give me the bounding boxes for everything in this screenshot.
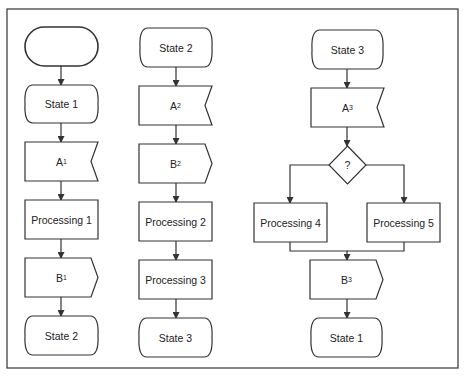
node-label-text: State 3	[159, 332, 192, 344]
node-label-state3: State 3	[312, 30, 383, 69]
node-label-text: State 1	[45, 98, 78, 110]
node-label-text: State 3	[331, 44, 364, 56]
node-label-text: A	[342, 102, 349, 114]
node-label-state1: State 1	[25, 85, 98, 123]
node-label-proc5: Processing 5	[367, 203, 440, 242]
node-label-decision: ?	[329, 146, 366, 184]
node-label-a2: A2	[139, 86, 212, 125]
node-label-proc4: Processing 4	[254, 203, 327, 242]
node-label-text: Processing 2	[145, 216, 206, 228]
node-label-text: A	[170, 100, 177, 112]
node-label-text: State 2	[45, 330, 78, 342]
node-label-subscript: 1	[63, 274, 67, 281]
node-label-subscript: 2	[177, 102, 181, 109]
connector-proc4-to-b3	[290, 242, 347, 260]
node-label-text: ?	[345, 159, 351, 171]
node-label-state2: State 2	[140, 28, 212, 67]
connector-decision-to-proc5	[366, 165, 404, 203]
node-label-subscript: 1	[63, 158, 67, 165]
node-label-text: A	[56, 156, 63, 168]
node-label-text: Processing 3	[145, 274, 206, 286]
node-label-b2: B2	[139, 144, 212, 183]
node-label-text: Processing 5	[373, 217, 434, 229]
node-label-b3: B3	[310, 260, 383, 299]
node-label-subscript: 2	[177, 160, 181, 167]
node-label-proc2: Processing 2	[139, 202, 212, 241]
node-label-subscript: 3	[348, 276, 352, 283]
node-label-text: B	[56, 272, 63, 284]
connector-proc5-to-b3	[347, 242, 404, 251]
node-label-state1_end: State 1	[311, 318, 382, 357]
node-label-subscript: 3	[349, 104, 353, 111]
node-label-b1: B1	[25, 258, 98, 297]
node-label-text: B	[170, 158, 177, 170]
node-label-state2_end: State 2	[25, 316, 98, 355]
node-label-a3: A3	[311, 88, 384, 127]
node-label-start	[25, 27, 98, 66]
node-label-proc1: Processing 1	[25, 200, 98, 239]
node-label-text: State 2	[159, 42, 192, 54]
node-label-text: Processing 1	[31, 214, 92, 226]
node-label-proc3: Processing 3	[139, 260, 212, 299]
nodes	[25, 27, 440, 357]
node-label-text: State 1	[330, 332, 363, 344]
node-label-text: B	[341, 274, 348, 286]
node-label-text: Processing 4	[260, 217, 321, 229]
node-label-a1: A1	[25, 142, 98, 181]
node-label-state3_end: State 3	[139, 318, 212, 357]
connector-decision-to-proc4	[290, 165, 329, 203]
